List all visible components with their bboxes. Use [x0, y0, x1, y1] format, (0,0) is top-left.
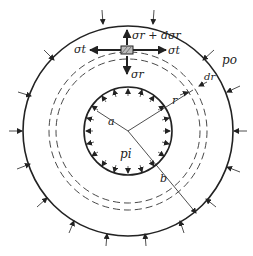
label-a: a: [108, 115, 115, 128]
cylinder-diagram: σr + dσr σt σt σr po dr r a pi b: [0, 0, 253, 256]
radius-r-line: [128, 90, 193, 131]
label-sigma-r-plus: σr + dσr: [132, 29, 182, 42]
label-sigma-t-right: σt: [168, 44, 181, 57]
dr-arrow-right: [199, 82, 207, 86]
label-sigma-t-left: σt: [74, 43, 87, 56]
label-p-o: po: [222, 53, 237, 67]
label-sigma-r: σr: [131, 68, 145, 81]
label-dr: dr: [204, 71, 216, 82]
external-pressure-arrows: [9, 10, 247, 246]
label-r: r: [172, 94, 178, 107]
label-p-i: pi: [120, 147, 132, 161]
label-b: b: [160, 172, 167, 185]
